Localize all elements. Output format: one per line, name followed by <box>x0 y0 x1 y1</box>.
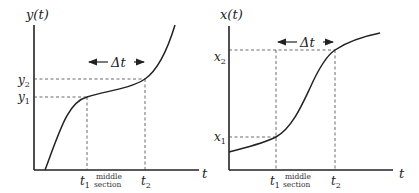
right-y-axis-label: x(t) <box>220 7 243 22</box>
right-x-axis-label: t <box>399 166 405 181</box>
left-y1-label: y1 <box>17 90 30 106</box>
left-t1-label: t1 <box>80 174 90 190</box>
left-section-label: section <box>94 180 121 189</box>
right-curve <box>229 33 380 152</box>
right-delta-label: Δt <box>299 35 315 50</box>
left-x-axis-label: t <box>202 166 208 181</box>
left-y2-label: y2 <box>17 73 30 89</box>
right-x2-label: x2 <box>214 50 226 66</box>
left-panel: y(t) t y2 y1 t1 t2 middle section Δt <box>17 7 208 190</box>
left-y-axis-label: y(t) <box>25 7 49 22</box>
right-t1-label: t1 <box>270 174 280 190</box>
left-t2-label: t2 <box>141 174 151 190</box>
left-delta-label: Δt <box>110 55 126 70</box>
right-section-label: section <box>283 180 310 189</box>
right-t2-label: t2 <box>331 174 341 190</box>
left-curve <box>45 25 175 170</box>
right-panel: x(t) t x2 x1 t1 t2 middle section Δt <box>214 7 405 190</box>
right-x1-label: x1 <box>214 130 226 146</box>
diagram-canvas: y(t) t y2 y1 t1 t2 middle section Δt x(t… <box>0 0 419 193</box>
